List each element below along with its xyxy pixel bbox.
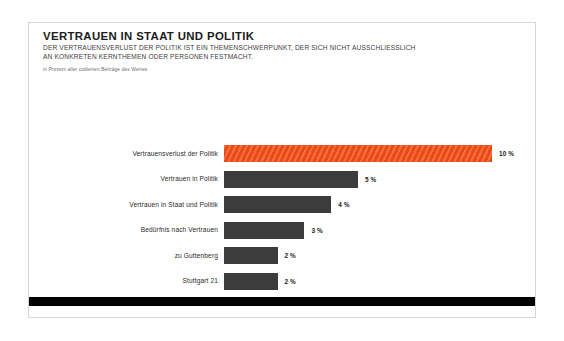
bar-track: 2 % bbox=[224, 247, 536, 264]
chart-subtitle-line-1: DER VERTRAUENSVERLUST DER POLITIK IST EI… bbox=[43, 44, 521, 53]
bar-category-label: Vertrauensverlust der Politik bbox=[29, 150, 218, 158]
bar-category-label: zu Guttenberg bbox=[29, 252, 218, 260]
chart-unit-note: in Prozent aller codierten Beiträge des … bbox=[43, 67, 521, 73]
bar-row: zu Guttenberg2 % bbox=[29, 243, 536, 269]
bar bbox=[224, 222, 304, 239]
bar-value-label: 10 % bbox=[499, 150, 514, 157]
bar-category-label: Vertrauen in Politik bbox=[29, 175, 218, 183]
page-title: VERTRAUEN IN STAAT UND POLITIK bbox=[43, 30, 521, 43]
bar-row: Bedürfnis nach Vertrauen3 % bbox=[29, 218, 536, 244]
bar-value-label: 5 % bbox=[365, 176, 376, 183]
bar bbox=[224, 247, 278, 264]
bar-row: Vertrauensverlust der Politik10 % bbox=[29, 141, 536, 167]
bar-track: 10 % bbox=[224, 145, 536, 162]
bar-track: 4 % bbox=[224, 196, 536, 213]
bar-chart-plot-area: Vertrauensverlust der Politik10 %Vertrau… bbox=[29, 141, 536, 301]
bar-track: 2 % bbox=[224, 273, 536, 290]
chart-subtitle-line-2: AN KONKRETEN KERNTHEMEN ODER PERSONEN FE… bbox=[43, 53, 521, 62]
bar-highlight bbox=[224, 145, 492, 162]
bar-category-label: Stuttgart 21 bbox=[29, 277, 218, 285]
chart-subtitle: DER VERTRAUENSVERLUST DER POLITIK IST EI… bbox=[43, 44, 521, 61]
bar-value-label: 4 % bbox=[338, 201, 349, 208]
bar-row: Stuttgart 212 % bbox=[29, 269, 536, 295]
slide-card: VERTRAUEN IN STAAT UND POLITIK DER VERTR… bbox=[28, 22, 536, 318]
bar-track: 3 % bbox=[224, 222, 536, 239]
bar-value-label: 2 % bbox=[285, 252, 296, 259]
bottom-rule bbox=[29, 297, 536, 306]
bar-category-label: Vertrauen in Staat und Politik bbox=[29, 201, 218, 209]
bar-row: Vertrauen in Staat und Politik4 % bbox=[29, 192, 536, 218]
bar-value-label: 3 % bbox=[311, 227, 322, 234]
bar-value-label: 2 % bbox=[285, 278, 296, 285]
bar bbox=[224, 196, 331, 213]
bar bbox=[224, 171, 358, 188]
bar-track: 5 % bbox=[224, 171, 536, 188]
bar bbox=[224, 273, 278, 290]
bar-category-label: Bedürfnis nach Vertrauen bbox=[29, 226, 218, 234]
chart-header: VERTRAUEN IN STAAT UND POLITIK DER VERTR… bbox=[43, 30, 521, 73]
bar-row: Vertrauen in Politik5 % bbox=[29, 167, 536, 193]
